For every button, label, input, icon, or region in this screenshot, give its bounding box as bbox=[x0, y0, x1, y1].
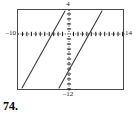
graphing-calculator-figure: –10 14 4 –12 74. bbox=[0, 0, 138, 116]
graph-line-2 bbox=[59, 11, 102, 88]
window-ymin-label: –12 bbox=[55, 90, 81, 98]
window-ymax-label: 4 bbox=[56, 0, 80, 8]
plot-canvas bbox=[18, 10, 125, 91]
graph-line-1 bbox=[22, 11, 65, 88]
window-xmin-label: –10 bbox=[0, 29, 16, 37]
figure-number-caption: 74. bbox=[3, 99, 18, 113]
calculator-viewing-window bbox=[17, 9, 124, 90]
window-xmax-label: 14 bbox=[125, 29, 138, 37]
x-axis-ticks bbox=[22, 32, 122, 36]
